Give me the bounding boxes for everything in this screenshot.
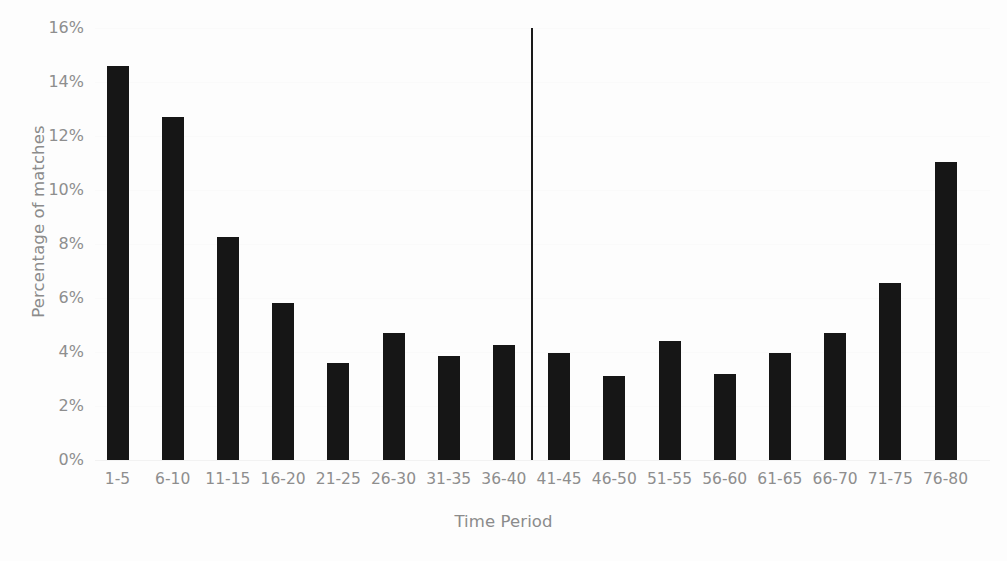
y-axis-tick-label: 10% <box>36 182 84 198</box>
bar <box>162 117 184 460</box>
half-time-divider-line <box>531 28 533 460</box>
bar <box>714 374 736 460</box>
bar <box>217 237 239 460</box>
bar <box>659 341 681 460</box>
bar <box>272 303 294 460</box>
bar <box>327 363 349 460</box>
bar-chart: Percentage of matches 0%2%4%6%8%10%12%14… <box>0 0 1007 561</box>
y-axis-tick-label: 8% <box>36 236 84 252</box>
x-axis-baseline <box>95 460 990 461</box>
y-axis-tick-label: 4% <box>36 344 84 360</box>
plot-area <box>95 28 990 460</box>
y-axis-tick-labels: 0%2%4%6%8%10%12%14%16% <box>36 0 84 561</box>
bar <box>548 353 570 460</box>
x-axis-title: Time Period <box>0 512 1007 531</box>
y-axis-tick-label: 6% <box>36 290 84 306</box>
bar <box>438 356 460 460</box>
x-axis-tick-labels: 1-56-1011-1516-2021-2526-3031-3536-4041-… <box>95 470 990 500</box>
y-axis-tick-label: 2% <box>36 398 84 414</box>
x-axis-tick-label: 76-80 <box>911 470 981 488</box>
y-axis-tick-label: 16% <box>36 20 84 36</box>
bar <box>383 333 405 460</box>
bar <box>769 353 791 460</box>
bar <box>107 66 129 460</box>
y-axis-tick-label: 14% <box>36 74 84 90</box>
y-axis-tick-label: 12% <box>36 128 84 144</box>
y-axis-tick-label: 0% <box>36 452 84 468</box>
bar <box>493 345 515 460</box>
bars-layer <box>95 28 990 460</box>
bar <box>879 283 901 460</box>
bar <box>824 333 846 460</box>
bar <box>603 376 625 460</box>
bar <box>935 162 957 460</box>
